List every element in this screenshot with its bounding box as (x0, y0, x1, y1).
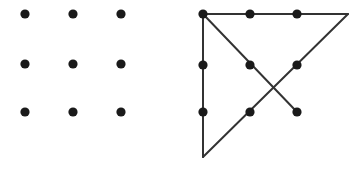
dot-unsolved-grid-r3c2 (68, 107, 77, 116)
dot-solved-grid-r3c2 (245, 107, 254, 116)
dot-unsolved-grid-r2c1 (20, 59, 29, 68)
dot-unsolved-grid-r1c1 (20, 9, 29, 18)
dot-solved-grid-r2c2 (245, 60, 254, 69)
dot-unsolved-grid-r2c2 (68, 59, 77, 68)
dot-solved-grid-r3c3 (292, 107, 301, 116)
dot-solved-grid-r2c3 (292, 60, 301, 69)
solution-lines-layer (203, 14, 348, 157)
dot-solved-grid-r1c1 (198, 9, 207, 18)
dot-unsolved-grid-r1c2 (68, 9, 77, 18)
nine-dots-puzzle-figure (0, 0, 364, 170)
dot-solved-grid-r3c1 (198, 107, 207, 116)
dot-solved-grid-r1c2 (245, 9, 254, 18)
dot-solved-grid-r1c3 (292, 9, 301, 18)
dot-unsolved-grid-r3c1 (20, 107, 29, 116)
dot-solved-grid-r2c1 (198, 60, 207, 69)
dot-unsolved-grid-r1c3 (116, 9, 125, 18)
dot-unsolved-grid-r2c3 (116, 59, 125, 68)
puzzle-drawing (0, 0, 364, 170)
dot-unsolved-grid-r3c3 (116, 107, 125, 116)
